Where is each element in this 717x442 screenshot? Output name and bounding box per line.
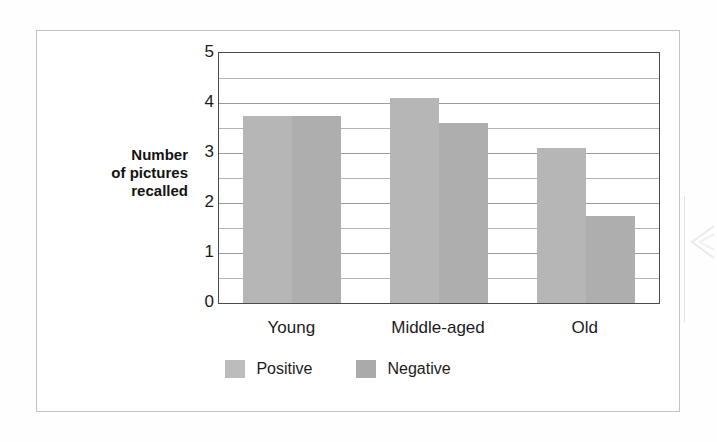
y-tick-label: 2: [188, 192, 214, 212]
y-axis-title: Number of pictures recalled: [48, 146, 188, 200]
bar-middle-aged-negative: [439, 123, 488, 303]
plot-area: [218, 52, 660, 304]
x-axis-category-labels: YoungMiddle-agedOld: [218, 318, 658, 342]
bars-layer: [219, 53, 659, 303]
bar-young-positive: [243, 116, 292, 304]
bar-middle-aged-positive: [390, 98, 439, 303]
x-category-label: Old: [571, 318, 597, 338]
legend-swatch-positive-icon: [225, 360, 245, 378]
legend-label-negative: Negative: [387, 360, 450, 378]
scan-artifact-chevron-icon: [688, 222, 716, 266]
y-axis-title-line-2: of pictures: [48, 164, 188, 182]
y-axis-tick-labels: 012345: [188, 52, 214, 302]
y-tick-label: 0: [188, 292, 214, 312]
y-tick-label: 1: [188, 242, 214, 262]
scan-edge-line: [684, 196, 685, 322]
bar-young-negative: [292, 116, 341, 304]
y-axis-title-line-1: Number: [48, 146, 188, 164]
x-category-label: Middle-aged: [391, 318, 485, 338]
legend-label-positive: Positive: [256, 360, 312, 378]
x-category-label: Young: [268, 318, 316, 338]
legend-item-positive: Positive: [225, 360, 312, 378]
y-tick-label: 3: [188, 142, 214, 162]
screenshot-root: Number of pictures recalled 012345 Young…: [0, 0, 717, 442]
y-axis-title-line-3: recalled: [48, 182, 188, 200]
y-tick-label: 4: [188, 92, 214, 112]
plot-wrapper: 012345: [188, 52, 658, 312]
chart-legend: Positive Negative: [188, 356, 488, 382]
y-tick-label: 5: [188, 42, 214, 62]
legend-item-negative: Negative: [356, 360, 450, 378]
legend-swatch-negative-icon: [356, 360, 376, 378]
bar-old-negative: [586, 216, 635, 304]
bar-old-positive: [537, 148, 586, 303]
